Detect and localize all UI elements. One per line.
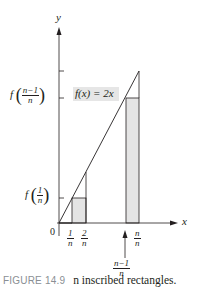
caption-text: n inscribed rectangles.	[73, 274, 176, 286]
pointer-arrow-icon	[123, 230, 128, 238]
x-label-n-over-n: nn	[134, 228, 141, 248]
x-label-2-over-n: 2n	[81, 228, 88, 248]
inscribed-rectangle-last	[126, 98, 139, 223]
y-label-f-n-minus-1-over-n: f (n−1n)	[10, 85, 45, 106]
origin-label: 0	[50, 226, 55, 237]
figure-number: FIGURE 14.9	[3, 275, 65, 286]
y-label-f-1-over-n: f (1n)	[25, 185, 49, 206]
y-axis-arrow-icon	[57, 27, 62, 35]
figure-caption: FIGURE 14.9n inscribed rectangles.	[3, 273, 198, 288]
x-axis-label: x	[182, 215, 187, 227]
function-label: f(x) = 2x	[75, 87, 114, 99]
diagram-canvas	[0, 0, 200, 304]
y-axis-label: y	[56, 11, 61, 23]
inscribed-rectangle-first	[72, 198, 86, 223]
x-axis-arrow-icon	[170, 221, 178, 226]
x-label-1-over-n: 1n	[67, 228, 74, 248]
